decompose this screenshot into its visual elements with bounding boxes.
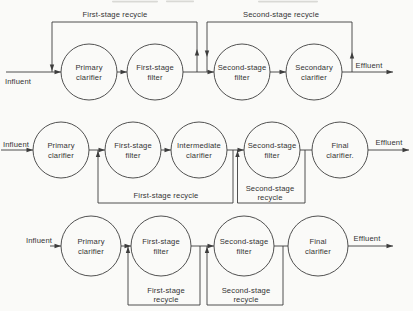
unit-label-line1: Second-stage <box>218 63 267 72</box>
recycle-label-line2: recycle <box>257 193 282 202</box>
row3-first-stage-filter-circle <box>131 216 191 276</box>
unit-label-line2: filter <box>264 151 280 160</box>
row1-second-stage-filter-circle <box>214 44 270 100</box>
unit-label-line1: Final <box>309 237 326 246</box>
cropped-text-fragment <box>112 0 318 2</box>
row2-second-stage-filter-label: Second-stage filter <box>248 141 297 160</box>
row1-effluent-label: Effluent <box>356 61 384 70</box>
process-flow-diagram: Influent Effluent First-stage recycle Se… <box>0 0 413 311</box>
arrowhead <box>238 148 245 152</box>
arrowhead <box>50 65 54 72</box>
arrowhead <box>208 70 215 74</box>
recycle-label-line1: Second-stage <box>246 184 295 193</box>
row2-intermediate-clarifier-label: Intermediate clarifier <box>177 141 221 160</box>
unit-label-line1: First-stage <box>142 237 180 246</box>
recycle-label-line1: Second-stage <box>222 286 271 295</box>
unit-label-line2: filter <box>153 247 169 256</box>
diagram-row-1: Influent Effluent First-stage recycle Se… <box>5 10 393 100</box>
recycle-label-line1: First-stage <box>147 286 185 295</box>
arrowhead <box>205 51 209 58</box>
unit-label-line1: First-stage <box>114 141 152 150</box>
arrowhead <box>235 151 239 157</box>
row1-first-stage-recycle-label: First-stage recycle <box>83 10 148 19</box>
unit-label-line2: filter <box>125 151 141 160</box>
row3-second-stage-recycle-label: Second-stage recycle <box>222 286 271 304</box>
row1-secondary-clarifier-circle <box>286 44 342 100</box>
row2-effluent-label: Effluent <box>376 138 404 147</box>
row2-first-stage-filter-circle <box>105 122 161 178</box>
row1-second-stage-filter-label: Second-stage filter <box>218 63 267 82</box>
row2-influent-label: Influent <box>3 140 30 149</box>
row2-second-stage-recycle-label: Second-stage recycle <box>246 184 295 202</box>
row3-final-clarifier-label: Final clarifier <box>305 237 331 256</box>
row3-influent-label: Influent <box>26 236 53 245</box>
unit-label-line2: clarifier. <box>326 151 354 160</box>
row1-first-stage-filter-label: First-stage filter <box>136 63 174 82</box>
row2-first-stage-filter-label: First-stage filter <box>114 141 152 160</box>
row3-first-stage-recycle-label: First-stage recycle <box>147 286 185 304</box>
unit-label-line1: Intermediate <box>177 141 221 150</box>
row2-final-clarifier-label: Final clarifier. <box>326 141 354 160</box>
row2-second-stage-filter-circle <box>244 122 300 178</box>
row3-effluent-label: Effluent <box>354 234 382 243</box>
arrowhead <box>387 70 394 74</box>
unit-label-line2: clarifier <box>301 73 327 82</box>
unit-label-line1: Primary <box>77 237 104 246</box>
row2-intermediate-clarifier-circle <box>171 122 227 178</box>
unit-label-line2: filter <box>236 247 252 256</box>
arrowhead <box>99 148 106 152</box>
row3-first-stage-filter-label: First-stage filter <box>142 237 180 256</box>
figure-canvas: Influent Effluent First-stage recycle Se… <box>0 0 413 311</box>
row1-influent-label: Influent <box>5 77 32 86</box>
unit-label-line1: First-stage <box>136 63 174 72</box>
recycle-label-line2: recycle <box>233 295 258 304</box>
unit-label-line1: Secondary <box>295 63 333 72</box>
row2-final-clarifier-circle <box>312 122 368 178</box>
arrowhead <box>195 49 199 56</box>
row2-primary-clarifier-label: Primary clarifier <box>47 141 74 160</box>
arrowhead <box>387 244 394 248</box>
unit-label-line2: clarifier <box>186 151 212 160</box>
unit-label-line2: clarifier <box>48 151 74 160</box>
arrowhead <box>208 244 215 248</box>
row1-first-stage-filter-circle <box>127 44 183 100</box>
arrowhead <box>55 70 62 74</box>
row2-first-stage-recycle-label: First-stage recycle <box>134 191 199 200</box>
arrowhead <box>165 148 172 152</box>
unit-label-line1: Primary <box>47 141 74 150</box>
unit-label-line1: Second-stage <box>220 237 269 246</box>
unit-label-line2: filter <box>234 73 250 82</box>
diagram-row-3: Influent Effluent First-stage recycle Se… <box>26 216 393 305</box>
unit-label-line2: clarifier <box>78 247 104 256</box>
unit-label-line1: Second-stage <box>248 141 297 150</box>
arrowhead <box>126 247 130 253</box>
recycle-label-line2: recycle <box>153 295 178 304</box>
row1-primary-clarifier-circle <box>61 44 117 100</box>
row3-final-clarifier-circle <box>288 216 348 276</box>
arrowhead <box>280 70 287 74</box>
row2-primary-clarifier-circle <box>33 122 89 178</box>
row3-second-stage-filter-circle <box>214 216 274 276</box>
unit-label-line1: Primary <box>75 63 102 72</box>
arrowhead <box>403 148 410 152</box>
diagram-row-2: Influent Effluent First-stage recycle Se… <box>1 122 409 203</box>
row3-second-stage-filter-label: Second-stage filter <box>220 237 269 256</box>
arrowhead <box>350 52 354 59</box>
row3-primary-clarifier-circle <box>61 216 121 276</box>
arrowhead <box>55 244 62 248</box>
arrowhead <box>121 70 128 74</box>
unit-label-line2: filter <box>147 73 163 82</box>
row3-primary-clarifier-label: Primary clarifier <box>77 237 104 256</box>
row1-second-stage-recycle-label: Second-stage recycle <box>243 10 319 19</box>
unit-label-line2: clarifier <box>76 73 102 82</box>
row1-first-stage-recycle-line <box>52 22 197 72</box>
unit-label-line1: Final <box>331 141 348 150</box>
row1-secondary-clarifier-label: Secondary clarifier <box>295 63 333 82</box>
unit-label-line2: clarifier <box>305 247 331 256</box>
row1-primary-clarifier-label: Primary clarifier <box>75 63 102 82</box>
